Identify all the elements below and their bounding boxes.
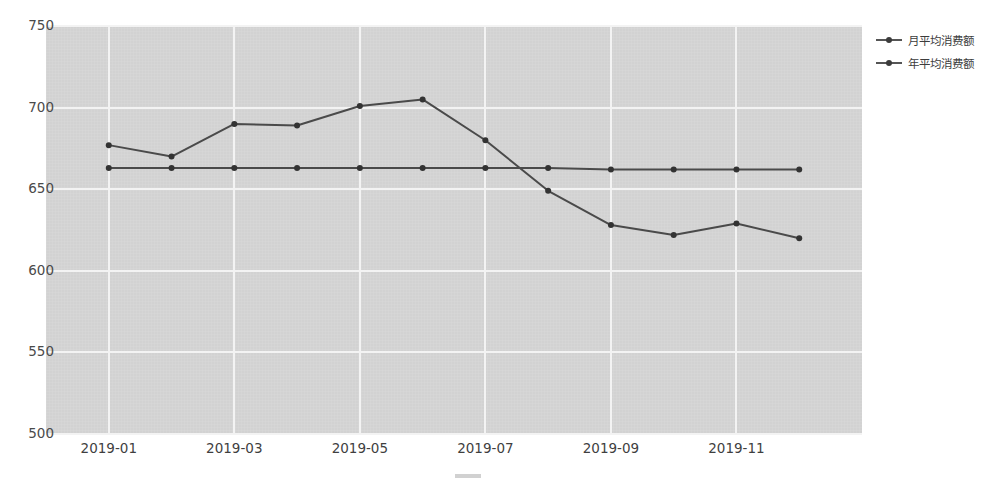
data-point-marker[interactable] [294,123,300,129]
legend-marker-icon [876,58,902,68]
x-axis-tick-label: 2019-09 [583,440,639,456]
data-point-marker[interactable] [796,235,802,241]
data-point-marker[interactable] [608,222,614,228]
data-point-marker[interactable] [231,121,237,127]
legend-label-monthly: 月平均消费额 [908,32,974,48]
data-point-marker[interactable] [545,165,551,171]
data-point-marker[interactable] [608,167,614,173]
legend-item-yearly[interactable]: 年平均消费额 [876,55,974,71]
data-point-marker[interactable] [420,96,426,102]
data-point-marker[interactable] [169,165,175,171]
series-line-yearly [109,168,799,170]
data-point-marker[interactable] [545,188,551,194]
series-layer [46,26,862,434]
data-point-marker[interactable] [671,167,677,173]
data-point-marker[interactable] [106,165,112,171]
data-point-marker[interactable] [482,165,488,171]
legend-marker-icon [876,35,902,45]
x-axis-tick-label: 2019-07 [457,440,513,456]
legend-item-monthly[interactable]: 月平均消费额 [876,32,974,48]
plot-area [46,26,862,434]
x-axis-tick-label: 2019-01 [81,440,137,456]
y-axis-tick-label: 750 [12,17,54,33]
data-point-marker[interactable] [733,220,739,226]
data-point-marker[interactable] [231,165,237,171]
data-point-marker[interactable] [796,167,802,173]
data-point-marker[interactable] [169,154,175,160]
x-axis-tick-label: 2019-03 [206,440,262,456]
chart-legend: 月平均消费额 年平均消费额 [876,32,974,71]
y-axis-tick-label: 600 [12,262,54,278]
data-point-marker[interactable] [482,137,488,143]
page-artifact [455,474,481,478]
data-point-marker[interactable] [294,165,300,171]
data-point-marker[interactable] [671,232,677,238]
y-axis-tick-label: 500 [12,425,54,441]
x-axis-tick-label: 2019-11 [708,440,764,456]
data-point-marker[interactable] [420,165,426,171]
data-point-marker[interactable] [106,142,112,148]
data-point-marker[interactable] [357,165,363,171]
y-axis-tick-label: 700 [12,99,54,115]
data-point-marker[interactable] [733,167,739,173]
data-point-marker[interactable] [357,103,363,109]
legend-label-yearly: 年平均消费额 [908,55,974,71]
y-axis-tick-label: 550 [12,343,54,359]
y-axis-tick-label: 650 [12,180,54,196]
x-axis-tick-label: 2019-05 [332,440,388,456]
line-chart: 750700650600550500 2019-012019-032019-05… [0,0,1001,481]
